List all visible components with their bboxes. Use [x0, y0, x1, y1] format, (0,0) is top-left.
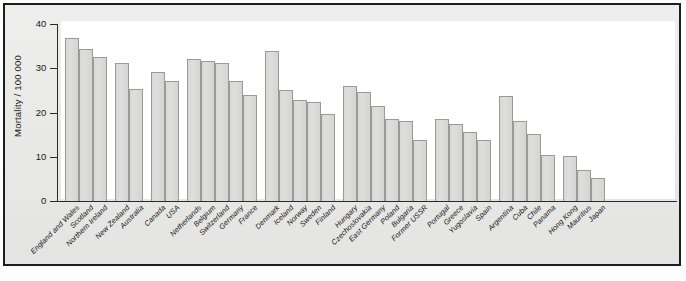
y-axis-tick: 20	[50, 113, 57, 114]
bar[interactable]	[279, 90, 293, 201]
x-axis-labels: England and WalesScotlandNorthern Irelan…	[61, 203, 675, 266]
bar-group	[499, 21, 555, 201]
bar-group	[343, 21, 427, 201]
bar[interactable]	[513, 121, 527, 201]
x-axis-label: Canada	[142, 203, 167, 228]
bar[interactable]	[93, 57, 107, 201]
figure-frame: Mortality / 100 000 England and WalesSco…	[3, 3, 681, 266]
y-axis-tick: 0	[50, 201, 57, 202]
bar-group	[563, 21, 605, 201]
bar[interactable]	[343, 86, 357, 201]
y-axis-tick-label: 40	[36, 18, 46, 29]
bar[interactable]	[577, 170, 591, 201]
bar[interactable]	[413, 140, 427, 201]
bar[interactable]	[321, 114, 335, 201]
y-axis-tick-label: 30	[36, 62, 46, 73]
bar-group	[151, 21, 179, 201]
bar[interactable]	[293, 100, 307, 201]
x-axis-label: USA	[164, 203, 181, 220]
y-axis-tick: 40	[50, 24, 57, 25]
bar[interactable]	[243, 95, 257, 201]
bar[interactable]	[115, 63, 129, 201]
y-axis	[57, 24, 58, 201]
y-axis-tick-label: 20	[36, 107, 46, 118]
y-axis-tick: 10	[50, 157, 57, 158]
x-axis	[57, 201, 677, 202]
y-axis-title: Mortality / 100 000	[12, 55, 26, 137]
bars-layer	[61, 21, 675, 201]
bar[interactable]	[201, 61, 215, 201]
bar-group	[435, 21, 491, 201]
bar-group	[265, 21, 335, 201]
bar[interactable]	[477, 140, 491, 202]
bar[interactable]	[499, 96, 513, 201]
y-axis-tick-label: 10	[36, 151, 46, 162]
y-axis-tick-label: 0	[41, 195, 46, 206]
bar[interactable]	[307, 102, 321, 201]
bar[interactable]	[151, 72, 165, 201]
bar[interactable]	[187, 59, 201, 201]
y-axis-tick: 30	[50, 68, 57, 69]
figure-page: Mortality / 100 000 England and WalesSco…	[0, 0, 686, 281]
bar[interactable]	[265, 51, 279, 201]
bar[interactable]	[463, 132, 477, 201]
bar[interactable]	[165, 81, 179, 201]
bar[interactable]	[65, 38, 79, 201]
bar[interactable]	[449, 124, 463, 201]
bar[interactable]	[563, 156, 577, 201]
bar[interactable]	[385, 119, 399, 201]
bar[interactable]	[79, 49, 93, 201]
bar[interactable]	[527, 134, 541, 201]
bar-group	[115, 21, 143, 201]
bar[interactable]	[229, 81, 243, 201]
bar[interactable]	[357, 92, 371, 201]
bar[interactable]	[591, 178, 605, 201]
bar[interactable]	[371, 106, 385, 201]
bar-group	[187, 21, 257, 201]
bar-group	[65, 21, 107, 201]
bar[interactable]	[399, 121, 413, 201]
bar[interactable]	[129, 89, 143, 201]
bar[interactable]	[435, 119, 449, 201]
bar[interactable]	[541, 155, 555, 201]
bar[interactable]	[215, 63, 229, 201]
